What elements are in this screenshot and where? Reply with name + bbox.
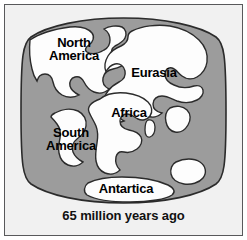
madagascar-landmass <box>145 120 155 137</box>
figure-caption: 65 million years ago <box>0 208 247 223</box>
australia-landmass <box>171 159 206 184</box>
india-landmass <box>166 106 190 132</box>
world-map-svg <box>0 0 247 240</box>
map-stage: North America Eurasia Africa South Ameri… <box>0 0 247 240</box>
paleogeographic-figure: North America Eurasia Africa South Ameri… <box>0 0 247 240</box>
